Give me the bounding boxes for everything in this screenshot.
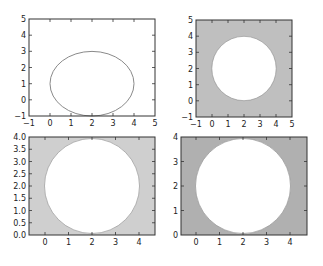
y-tick-label: 1.0 [13,207,26,216]
x-tick-label: 4 [273,120,278,129]
y-tick-labels: −1 0 1 2 3 4 5 [14,15,26,121]
y-tick-label: 5 [188,16,193,25]
y-tick-label: 4 [21,31,26,40]
x-tick-label: 4 [287,238,292,247]
x-tick-label: 4 [136,238,141,247]
x-tick-label: 3 [257,120,262,129]
y-tick-labels: −1 0 1 2 3 4 5 [181,16,193,122]
figure: −1 0 1 2 3 4 5 −1 0 1 2 3 4 5 [0,0,323,266]
circle-patch [45,139,140,234]
y-tick-label: 4.0 [13,133,26,142]
y-tick-label: 2.5 [13,170,26,179]
y-tick-label: 3.5 [13,145,26,154]
subplot-bottom-left: 0 1 2 3 4 0.0 0.5 1.0 1.5 2.0 2.5 3.0 3.… [13,133,155,247]
y-tick-label: 3 [21,47,26,56]
x-tick-labels: −1 0 1 2 3 4 5 [23,119,157,128]
x-tick-label: 4 [131,119,136,128]
circle-patch [212,36,276,100]
y-tick-labels: 0.0 0.5 1.0 1.5 2.0 2.5 3.0 3.5 4.0 [13,133,26,240]
x-tick-labels: 0 1 2 3 4 [42,238,141,247]
y-tick-label: 0 [173,231,178,240]
x-tick-label: 3 [113,238,118,247]
y-tick-label: 1 [188,81,193,90]
y-tick-label: 1.5 [13,194,26,203]
y-tick-label: 0.5 [13,219,26,228]
subplot-top-left: −1 0 1 2 3 4 5 −1 0 1 2 3 4 5 [14,15,157,128]
x-tick-label: 0 [47,119,52,128]
x-tick-labels: 0 1 2 3 4 [193,238,292,247]
y-tick-label: 4 [173,133,178,142]
x-tick-label: 1 [66,238,71,247]
x-tick-label: 5 [152,119,157,128]
x-tick-label: 1 [68,119,73,128]
circle-patch [196,139,291,234]
y-tick-label: 0 [21,96,26,105]
y-tick-label: 3 [188,48,193,57]
x-tick-label: 0 [193,238,198,247]
x-tick-labels: −1 0 1 2 3 4 5 [190,120,294,129]
subplot-top-right: −1 0 1 2 3 4 5 −1 0 1 2 3 4 5 [181,16,294,129]
x-tick-label: 2 [241,120,246,129]
y-tick-label: 0.0 [13,231,26,240]
y-tick-label: 3 [173,158,178,167]
x-tick-label: 5 [289,120,294,129]
x-tick-label: 3 [110,119,115,128]
y-tick-labels: 0 1 2 3 4 [173,133,178,240]
x-tick-label: 2 [240,238,245,247]
x-tick-label: 0 [209,120,214,129]
subplot-bottom-right: 0 1 2 3 4 0 1 2 3 4 [173,133,307,247]
y-tick-label: −1 [14,112,26,121]
plot-area [29,19,155,116]
y-tick-label: 5 [21,15,26,24]
y-tick-label: 0 [188,97,193,106]
y-tick-label: 2 [21,64,26,73]
x-tick-label: 0 [42,238,47,247]
x-tick-label: 1 [217,238,222,247]
x-tick-label: 2 [89,238,94,247]
x-tick-label: 3 [264,238,269,247]
y-tick-label: 3.0 [13,158,26,167]
x-tick-label: 1 [225,120,230,129]
y-tick-label: 4 [188,32,193,41]
y-tick-label: 2.0 [13,182,26,191]
y-tick-label: 2 [173,182,178,191]
y-tick-label: −1 [181,113,193,122]
x-tick-label: 2 [89,119,94,128]
y-tick-label: 1 [173,207,178,216]
y-tick-label: 1 [21,80,26,89]
y-tick-label: 2 [188,65,193,74]
